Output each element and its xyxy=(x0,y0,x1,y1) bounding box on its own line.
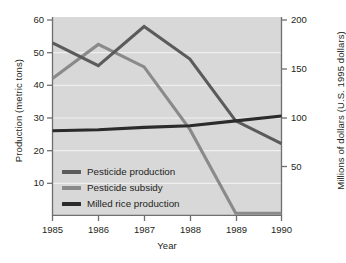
xtick-1988: 1988 xyxy=(171,224,211,235)
chart-legend: Pesticide production Pesticide subsidy M… xyxy=(62,164,180,211)
y-axis-right-title: Millions of dollars (U.S. 1995 dollars) xyxy=(335,11,346,211)
xtick-1986: 1986 xyxy=(79,224,119,235)
ytick-left-50: 50 xyxy=(20,47,44,58)
ytick-right-150: 150 xyxy=(291,63,317,74)
left-axis-ticks xyxy=(47,20,52,183)
legend-label: Milled rice production xyxy=(87,199,180,209)
x-axis-title: Year xyxy=(52,240,282,251)
ytick-left-20: 20 xyxy=(20,145,44,156)
ytick-left-60: 60 xyxy=(20,14,44,25)
ytick-right-100: 100 xyxy=(291,112,317,123)
xtick-1985: 1985 xyxy=(33,224,73,235)
legend-item-pesticide-subsidy: Pesticide subsidy xyxy=(62,180,180,195)
ytick-left-10: 10 xyxy=(20,177,44,188)
legend-swatch-icon xyxy=(62,170,81,174)
legend-swatch-icon xyxy=(62,186,81,190)
ytick-left-40: 40 xyxy=(20,79,44,90)
legend-swatch-icon xyxy=(62,202,81,206)
ytick-right-50: 50 xyxy=(291,161,317,172)
xtick-1990: 1990 xyxy=(262,224,302,235)
ytick-right-200: 200 xyxy=(291,14,317,25)
legend-item-milled-rice-production: Milled rice production xyxy=(62,196,180,211)
xtick-1987: 1987 xyxy=(125,224,165,235)
right-axis-ticks xyxy=(282,20,287,167)
legend-label: Pesticide production xyxy=(87,167,175,177)
legend-label: Pesticide subsidy xyxy=(87,183,163,193)
legend-item-pesticide-production: Pesticide production xyxy=(62,164,180,179)
ytick-left-30: 30 xyxy=(20,112,44,123)
xtick-1989: 1989 xyxy=(217,224,257,235)
y-axis-left-title: Production (metric tons) xyxy=(13,36,24,186)
